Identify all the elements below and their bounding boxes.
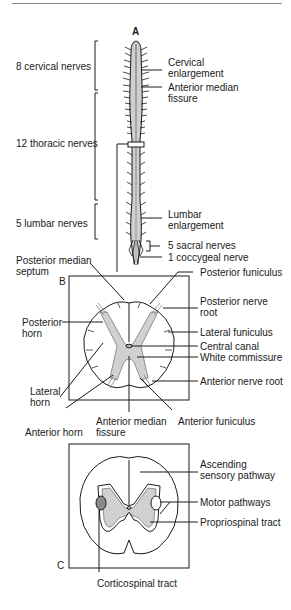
label-thoracic-nerves: 12 thoracic nerves xyxy=(16,138,98,149)
label-sacral-nerves: 5 sacral nerves xyxy=(168,240,236,251)
label-posterior-funiculus: Posterior funiculus xyxy=(200,267,282,278)
label-lumbar-nerves: 5 lumbar nerves xyxy=(16,218,88,229)
label-coccygeal-nerve: 1 coccygeal nerve xyxy=(168,252,249,263)
label-posterior-nerve-root: Posterior nerve root xyxy=(200,296,270,318)
label-lateral-funiculus: Lateral funiculus xyxy=(200,327,273,338)
label-posterior-median-septum: Posterior median septum xyxy=(16,255,96,277)
label-anterior-median-fissure-a: Anterior median fissure xyxy=(168,82,248,104)
label-anterior-funiculus: Anterior funiculus xyxy=(178,416,255,427)
label-cervical-enlargement: Cervical enlargement xyxy=(168,57,238,79)
label-white-commissure: White commissure xyxy=(200,352,282,363)
label-motor-pathways: Motor pathways xyxy=(200,497,271,508)
panel-letter-c: C xyxy=(57,560,64,571)
label-anterior-median-fissure-b: Anterior median fissure xyxy=(96,416,168,438)
label-lateral-horn: Lateral horn xyxy=(30,386,64,408)
panel-letter-a: A xyxy=(132,26,139,37)
label-cervical-nerves: 8 cervical nerves xyxy=(16,61,91,72)
cross-section-c xyxy=(69,444,198,572)
label-corticospinal-tract: Corticospinal tract xyxy=(97,578,177,589)
panel-letter-b: B xyxy=(59,276,66,287)
label-posterior-horn: Posterior horn xyxy=(22,317,64,339)
spinal-cord-longitudinal xyxy=(88,41,162,272)
label-central-canal: Central canal xyxy=(200,341,259,352)
label-ascending-sensory-pathway: Ascending sensory pathway xyxy=(200,459,280,481)
label-propriospinal-tract: Propriospinal tract xyxy=(200,517,281,528)
label-anterior-horn: Anterior horn xyxy=(25,427,83,438)
label-anterior-nerve-root: Anterior nerve root xyxy=(200,376,283,387)
label-lumbar-enlargement: Lumbar enlargement xyxy=(168,209,238,231)
cross-section-b xyxy=(60,263,198,412)
